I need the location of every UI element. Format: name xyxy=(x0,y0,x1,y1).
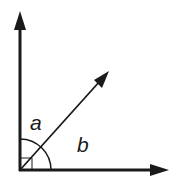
angle-diagram: a b xyxy=(0,0,177,184)
angle-a-label: a xyxy=(30,111,42,134)
angle-b-label: b xyxy=(77,133,89,156)
vertical-arrow xyxy=(14,11,26,171)
horizontal-arrow xyxy=(19,164,169,176)
